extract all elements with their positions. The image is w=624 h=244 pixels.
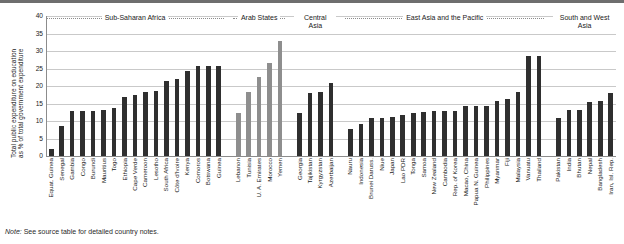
bar[interactable] xyxy=(505,99,510,156)
bar-slot[interactable] xyxy=(46,16,56,156)
bar[interactable] xyxy=(442,111,447,157)
bar[interactable] xyxy=(432,111,437,157)
bar-slot[interactable] xyxy=(193,16,203,156)
bar-slot[interactable] xyxy=(605,16,615,156)
bar[interactable] xyxy=(246,92,251,156)
bar[interactable] xyxy=(567,110,572,156)
bar-slot[interactable] xyxy=(513,16,523,156)
bar-slot[interactable] xyxy=(172,16,182,156)
bar-slot[interactable] xyxy=(161,16,171,156)
bar-slot[interactable] xyxy=(429,16,439,156)
bar-slot[interactable] xyxy=(408,16,418,156)
bar-slot[interactable] xyxy=(377,16,387,156)
bar[interactable] xyxy=(175,79,180,156)
bar[interactable] xyxy=(101,110,106,156)
bar-slot[interactable] xyxy=(305,16,315,156)
bar-slot[interactable] xyxy=(98,16,108,156)
bar[interactable] xyxy=(411,113,416,156)
bar[interactable] xyxy=(122,97,127,156)
bar[interactable] xyxy=(80,111,85,156)
bar[interactable] xyxy=(537,56,542,156)
bar[interactable] xyxy=(598,101,603,156)
bar-slot[interactable] xyxy=(574,16,584,156)
bar[interactable] xyxy=(70,111,75,156)
bar[interactable] xyxy=(196,66,201,156)
bar-slot[interactable] xyxy=(481,16,491,156)
bar-slot[interactable] xyxy=(315,16,325,156)
bar[interactable] xyxy=(308,93,313,156)
bar-slot[interactable] xyxy=(56,16,66,156)
bar[interactable] xyxy=(348,129,353,156)
bar-slot[interactable] xyxy=(77,16,87,156)
bar[interactable] xyxy=(526,56,531,156)
bar-slot[interactable] xyxy=(564,16,574,156)
bar-slot[interactable] xyxy=(439,16,449,156)
bar[interactable] xyxy=(516,92,521,156)
bar-slot[interactable] xyxy=(151,16,161,156)
bar-slot[interactable] xyxy=(387,16,397,156)
bar-slot[interactable] xyxy=(492,16,502,156)
bar[interactable] xyxy=(329,83,334,156)
bar[interactable] xyxy=(143,92,148,156)
bar[interactable] xyxy=(185,71,190,156)
bar-slot[interactable] xyxy=(534,16,544,156)
bar-slot[interactable] xyxy=(109,16,119,156)
bar-slot[interactable] xyxy=(119,16,129,156)
bar-slot[interactable] xyxy=(264,16,274,156)
bar[interactable] xyxy=(369,118,374,156)
bar-slot[interactable] xyxy=(523,16,533,156)
bar[interactable] xyxy=(133,95,138,156)
bar-slot[interactable] xyxy=(88,16,98,156)
bar[interactable] xyxy=(164,81,169,156)
bar-slot[interactable] xyxy=(585,16,595,156)
bar[interactable] xyxy=(59,126,64,156)
bar[interactable] xyxy=(206,66,211,156)
bar-slot[interactable] xyxy=(356,16,366,156)
bar[interactable] xyxy=(421,112,426,156)
bar[interactable] xyxy=(91,111,96,157)
bar-slot[interactable] xyxy=(130,16,140,156)
bar[interactable] xyxy=(278,41,283,156)
bar[interactable] xyxy=(257,77,262,156)
bar-slot[interactable] xyxy=(214,16,224,156)
bar-slot[interactable] xyxy=(67,16,77,156)
bar[interactable] xyxy=(463,106,468,156)
bar-slot[interactable] xyxy=(203,16,213,156)
bar[interactable] xyxy=(236,113,241,156)
bar-slot[interactable] xyxy=(460,16,470,156)
bar-slot[interactable] xyxy=(243,16,253,156)
bar-slot[interactable] xyxy=(418,16,428,156)
bar[interactable] xyxy=(608,93,613,156)
bar[interactable] xyxy=(390,117,395,156)
bar[interactable] xyxy=(267,63,272,156)
bar[interactable] xyxy=(453,111,458,157)
bar[interactable] xyxy=(359,124,364,156)
bar-slot[interactable] xyxy=(275,16,285,156)
bar[interactable] xyxy=(154,91,159,156)
bar-slot[interactable] xyxy=(233,16,243,156)
bar-slot[interactable] xyxy=(595,16,605,156)
bar-slot[interactable] xyxy=(254,16,264,156)
bar[interactable] xyxy=(297,113,302,156)
bar-slot[interactable] xyxy=(326,16,336,156)
bar[interactable] xyxy=(112,108,117,156)
bar[interactable] xyxy=(577,110,582,156)
bar[interactable] xyxy=(216,66,221,156)
bar[interactable] xyxy=(400,115,405,156)
bar[interactable] xyxy=(495,101,500,156)
bar[interactable] xyxy=(49,149,54,156)
bar-slot[interactable] xyxy=(345,16,355,156)
bar-slot[interactable] xyxy=(398,16,408,156)
bar-slot[interactable] xyxy=(140,16,150,156)
bar[interactable] xyxy=(587,102,592,156)
bar[interactable] xyxy=(484,106,489,156)
bar-slot[interactable] xyxy=(502,16,512,156)
bar-slot[interactable] xyxy=(450,16,460,156)
bar[interactable] xyxy=(474,106,479,156)
bar-slot[interactable] xyxy=(471,16,481,156)
bar-slot[interactable] xyxy=(553,16,563,156)
bar[interactable] xyxy=(556,118,561,156)
bar-slot[interactable] xyxy=(294,16,304,156)
bar-slot[interactable] xyxy=(182,16,192,156)
bar[interactable] xyxy=(380,118,385,156)
